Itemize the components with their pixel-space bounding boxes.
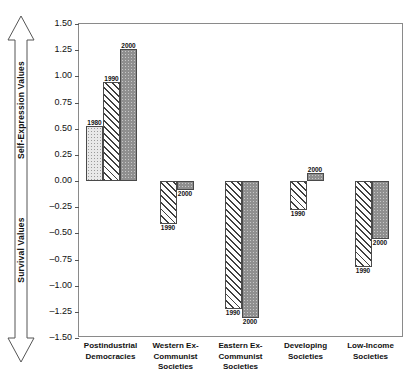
y-tick-mark: [75, 338, 79, 339]
bar-series-label: 2000: [308, 166, 322, 173]
y-tick-mark: [75, 50, 79, 51]
category-label-line: Western Ex-: [143, 341, 208, 352]
y-tick-mark: [75, 260, 79, 261]
bar-2000[interactable]: 2000: [242, 181, 259, 318]
y-tick-mark: [75, 181, 79, 182]
bar-series-label: 1990: [104, 75, 118, 82]
y-tick-label: –1.50: [49, 332, 72, 342]
category-label: DevelopingSocieties: [273, 341, 338, 362]
bar-group: 19902000: [355, 24, 389, 336]
bar-series-label: 1990: [161, 224, 175, 231]
category-label-line: Democracies: [78, 352, 143, 363]
bar-group: 19902000: [290, 24, 324, 336]
bar-series-label: 2000: [243, 318, 257, 325]
bar-series-label: 2000: [178, 190, 192, 197]
category-label-line: Postindustrial: [78, 341, 143, 352]
y-tick-mark: [75, 312, 79, 313]
bar-series-label: 2000: [121, 42, 135, 49]
bar-1980[interactable]: 1980: [86, 126, 103, 181]
y-tick-label: –1.25: [49, 306, 72, 316]
bar-2000[interactable]: 2000: [372, 181, 389, 239]
category-label-line: Communist: [208, 352, 273, 363]
category-label-line: Eastern Ex-: [208, 341, 273, 352]
bar-1990[interactable]: 1990: [160, 181, 177, 224]
bar-1990[interactable]: 1990: [225, 181, 242, 309]
bar-1990[interactable]: 1990: [355, 181, 372, 267]
bar-series-label: 1980: [87, 119, 101, 126]
chart-canvas: Self-Expression Values Survival Values 1…: [0, 0, 409, 390]
y-tick-label: 0.75: [54, 97, 72, 107]
y-tick-mark: [75, 207, 79, 208]
category-label-line: Developing: [273, 341, 338, 352]
category-label: PostindustrialDemocracies: [78, 341, 143, 362]
category-label-line: Societies: [338, 352, 403, 363]
y-tick-label: –0.50: [49, 227, 72, 237]
bar-group: 198019902000: [86, 24, 137, 336]
y-tick-mark: [75, 103, 79, 104]
y-tick-mark: [75, 129, 79, 130]
bar-2000[interactable]: 2000: [120, 49, 137, 181]
bar-2000[interactable]: 2000: [177, 181, 194, 190]
category-label-line: Societies: [208, 362, 273, 373]
y-tick-mark: [75, 76, 79, 77]
bar-series-label: 1990: [291, 210, 305, 217]
y-tick-mark: [75, 286, 79, 287]
bar-2000[interactable]: 2000: [307, 173, 324, 181]
y-tick-mark: [75, 155, 79, 156]
category-label: Eastern Ex-CommunistSocieties: [208, 341, 273, 373]
bar-1990[interactable]: 1990: [103, 82, 120, 181]
category-label-line: Low-Income: [338, 341, 403, 352]
y-tick-label: –1.00: [49, 280, 72, 290]
category-label-line: Societies: [143, 362, 208, 373]
bar-series-label: 1990: [226, 309, 240, 316]
category-label: Low-IncomeSocieties: [338, 341, 403, 362]
y-tick-label: 0.00: [54, 175, 72, 185]
bar-series-label: 2000: [373, 239, 387, 246]
plot-area: 1.501.251.000.750.500.250.00–0.25–0.50–0…: [78, 23, 403, 337]
y-tick-label: 1.00: [54, 70, 72, 80]
survival-values-label: Survival Values: [16, 150, 26, 350]
y-tick-mark: [75, 24, 79, 25]
bar-group: 19902000: [160, 24, 194, 336]
bar-series-label: 1990: [356, 267, 370, 274]
y-tick-label: 1.25: [54, 44, 72, 54]
y-tick-label: –0.75: [49, 254, 72, 264]
y-tick-label: 0.25: [54, 149, 72, 159]
y-tick-label: –0.25: [49, 201, 72, 211]
category-label-line: Societies: [273, 352, 338, 363]
bar-1990[interactable]: 1990: [290, 181, 307, 210]
y-tick-label: 1.50: [54, 18, 72, 28]
y-tick-mark: [75, 233, 79, 234]
category-label: Western Ex-CommunistSocieties: [143, 341, 208, 373]
y-tick-label: 0.50: [54, 123, 72, 133]
category-label-line: Communist: [143, 352, 208, 363]
bar-group: 19902000: [225, 24, 259, 336]
